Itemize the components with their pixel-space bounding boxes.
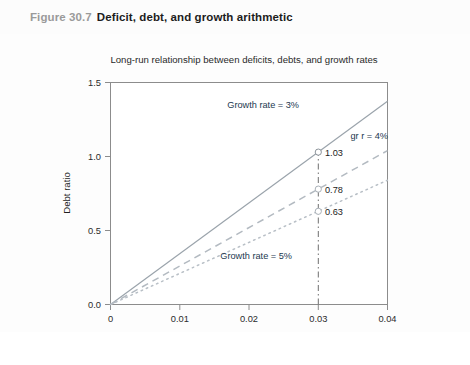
annotation-growth-3pct: Growth rate = 3% (227, 100, 299, 110)
data-point-marker-4pct (315, 186, 321, 192)
x-tick-label: 0.01 (171, 314, 189, 324)
figure-header: Figure 30.7Deficit, debt, and growth ari… (0, 0, 470, 34)
plot-area-border (111, 83, 388, 305)
x-axis: 0 0.01 0.02 0.03 0.04 Deficit ratio (108, 305, 397, 333)
data-point-marker-3pct (315, 149, 321, 155)
x-tick-label: 0 (108, 314, 113, 324)
y-tick-label: 0.5 (88, 226, 101, 236)
page-footer: » (0, 332, 470, 365)
x-tick-label: 0.03 (309, 314, 327, 324)
chart-canvas: 1.5 1.0 0.5 0.0 Debt ratio 0 0.01 0.02 (0, 34, 470, 332)
chart-container: Long-run relationship between deficits, … (0, 34, 470, 332)
annotation-growth-5pct: Growth rate = 5% (220, 251, 292, 261)
annotation-growth-4pct: gr r = 4% (350, 131, 388, 141)
figure-caption: Figure 30.7Deficit, debt, and growth ari… (30, 11, 293, 23)
data-point-marker-5pct (315, 208, 321, 214)
x-tick-label: 0.02 (240, 314, 258, 324)
figure-number: Figure 30.7 (30, 11, 92, 23)
figure-title: Deficit, debt, and growth arithmetic (97, 11, 293, 23)
data-value-label-5pct: 0.63 (325, 207, 343, 217)
y-axis: 1.5 1.0 0.5 0.0 Debt ratio (61, 78, 111, 310)
data-value-label-3pct: 1.03 (325, 148, 343, 158)
y-tick-label: 1.0 (88, 152, 101, 162)
y-tick-label: 1.5 (88, 78, 101, 88)
data-value-label-4pct: 0.78 (325, 185, 343, 195)
y-axis-title: Debt ratio (61, 172, 72, 214)
x-tick-label: 0.04 (378, 314, 396, 324)
figure-card: Long-run relationship between deficits, … (0, 34, 470, 332)
y-tick-label: 0.0 (88, 300, 101, 310)
